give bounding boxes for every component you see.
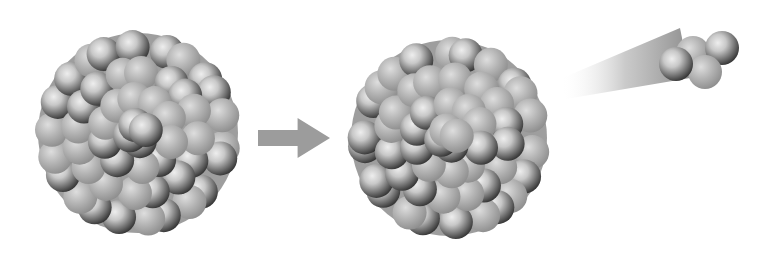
parent-nucleus [35, 30, 240, 235]
alpha-particle [560, 28, 739, 99]
proton-sphere [129, 113, 163, 147]
alpha-decay-diagram [0, 0, 771, 263]
daughter-nucleus [348, 37, 550, 239]
proton-sphere [659, 47, 693, 81]
neutron-sphere [688, 55, 722, 89]
diagram-canvas [0, 0, 771, 263]
decay-arrow-icon [258, 118, 330, 158]
neutron-sphere [440, 119, 474, 153]
